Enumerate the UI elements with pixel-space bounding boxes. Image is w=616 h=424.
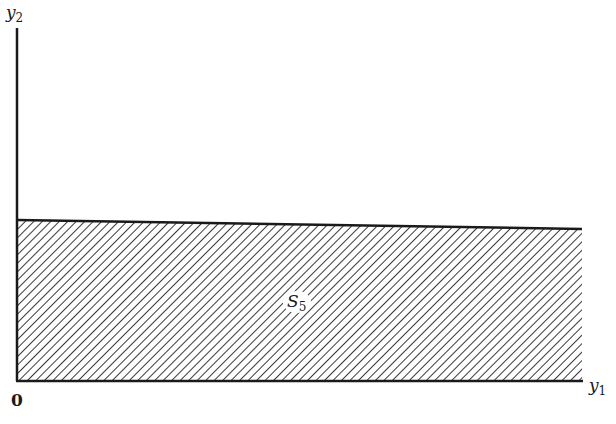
origin-label: 0 <box>11 390 23 410</box>
region-diagram: y2 y1 0 S5 <box>0 0 616 424</box>
y1-axis-label: y1 <box>588 375 606 398</box>
y2-axis-label: y2 <box>5 2 23 25</box>
